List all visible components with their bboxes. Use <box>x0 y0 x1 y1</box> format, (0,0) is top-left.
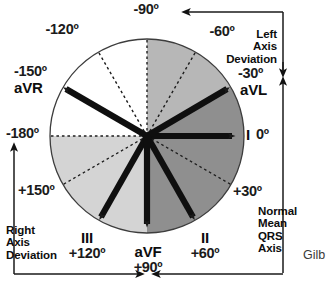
label-minus-90: -90º <box>108 2 184 17</box>
label-lead-II: II <box>183 230 227 245</box>
label-plus-60: +60º <box>172 246 238 261</box>
figure-canvas: -90º -120º -60º -150º aVR -30º aVL -180º… <box>0 0 333 283</box>
label-lead-I: I <box>246 127 250 142</box>
label-minus-120: -120º <box>24 22 100 37</box>
label-plus-90: +90º <box>112 260 184 275</box>
label-lead-aVF: aVF <box>122 244 174 259</box>
label-lead-aVR: aVR <box>14 80 43 95</box>
label-plus-30: +30º <box>233 184 262 199</box>
signature-text: Gilb <box>303 249 325 262</box>
sector-upper-left-white <box>50 39 147 136</box>
sector-lower-left-light <box>50 136 147 233</box>
label-minus-180: -180º <box>6 126 39 141</box>
label-plus-150: +150º <box>18 183 54 198</box>
label-lead-aVL: aVL <box>240 82 267 97</box>
label-minus-150: -150º <box>14 64 47 79</box>
caption-left-axis-deviation: Left Axis Deviation <box>195 28 277 65</box>
label-minus-30: -30º <box>238 66 263 81</box>
caption-right-axis-deviation: Right Axis Deviation <box>6 224 88 261</box>
label-zero-degrees: 0º <box>256 127 269 142</box>
